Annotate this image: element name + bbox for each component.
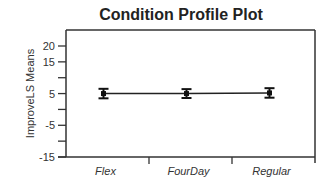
data-point-marker (184, 91, 189, 96)
plot-area: 20155-5-15ImproveLS MeansFlexFourDayRegu… (0, 0, 332, 191)
y-tick-label: 20 (43, 40, 55, 52)
x-category-label: Flex (95, 165, 116, 177)
y-tick-label: -15 (39, 151, 55, 163)
x-category-label: FourDay (167, 165, 211, 177)
data-point-marker (101, 91, 106, 96)
y-tick-label: 5 (49, 88, 55, 100)
data-point-marker (267, 90, 272, 95)
y-axis-title: ImproveLS Means (24, 48, 36, 138)
y-tick-label: 15 (43, 56, 55, 68)
y-tick-label: -5 (45, 119, 55, 131)
x-category-label: Regular (252, 165, 292, 177)
